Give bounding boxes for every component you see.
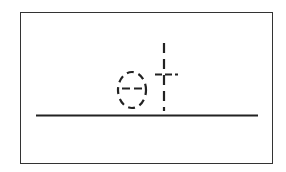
tracing-area <box>0 0 286 172</box>
letter-t-tracing <box>155 43 178 111</box>
letter-e-tracing <box>118 72 146 108</box>
